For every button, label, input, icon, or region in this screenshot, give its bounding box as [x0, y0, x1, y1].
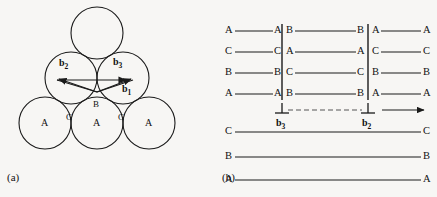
row-label-3-left-outer: B — [225, 67, 232, 78]
row-label-4-right-outer: A — [423, 88, 431, 99]
partial-vector-label-b3: b3 — [276, 118, 285, 131]
full-row-label-1-left: C — [225, 126, 232, 137]
site-label-c-left: C — [66, 113, 72, 122]
full-row-label-2-left: B — [225, 151, 232, 162]
row-label-3-middle-right: C — [357, 67, 364, 78]
row-label-3-right-outer: B — [423, 67, 430, 78]
vector-label-b1: b1 — [122, 84, 131, 97]
partial-vector-label-b2: b2 — [362, 118, 371, 131]
panel-b-caption: (b) — [222, 172, 235, 183]
vector-label-b2: b2 — [59, 58, 68, 71]
row-label-3-middle-left: C — [286, 67, 293, 78]
full-row-label-1-right: C — [423, 126, 430, 137]
vector-label-b1-sub: 1 — [128, 88, 132, 97]
site-label-c-right: C — [118, 113, 124, 122]
row-label-2-middle-left: A — [286, 46, 294, 57]
vector-label-b3-sub: 3 — [119, 61, 123, 70]
row-label-3-right-inner: B — [372, 67, 379, 78]
figure-container: A A A B C C b1 b2 b3 (a) A A B B A A C C… — [0, 0, 437, 197]
row-label-4-left-inner: A — [274, 88, 282, 99]
vector-label-b2-sub: 2 — [65, 62, 69, 71]
sphere-mid-left — [45, 52, 97, 104]
row-label-1-right-outer: A — [423, 25, 431, 36]
panel-b-dislocations — [275, 103, 424, 113]
full-row-label-2-right: B — [423, 151, 430, 162]
row-label-1-middle-right: B — [357, 25, 364, 36]
row-label-2-right-outer: C — [423, 46, 430, 57]
row-label-2-left-inner: C — [274, 46, 281, 57]
vector-closure-left — [57, 80, 97, 92]
row-label-2-right-inner: C — [372, 46, 379, 57]
row-label-1-left-inner: A — [274, 25, 282, 36]
sphere-top — [71, 7, 123, 59]
row-label-2-middle-right: A — [357, 46, 365, 57]
full-row-label-3-right: A — [423, 174, 431, 185]
row-label-4-middle-right: B — [357, 88, 364, 99]
row-label-2-left-outer: C — [225, 46, 232, 57]
panel-a-caption: (a) — [7, 172, 19, 183]
row-label-1-middle-left: B — [286, 25, 293, 36]
sphere-label-bottom-right: A — [145, 118, 152, 128]
panel-b-full-rows — [235, 132, 421, 180]
row-label-4-middle-left: B — [286, 88, 293, 99]
row-label-4-right-inner: A — [372, 88, 380, 99]
row-label-1-left-outer: A — [225, 25, 233, 36]
vector-label-b3: b3 — [113, 57, 122, 70]
partial-vector-label-b2-sub: 2 — [368, 122, 372, 131]
partial-vector-label-b3-sub: 3 — [282, 122, 286, 131]
row-label-3-left-inner: B — [274, 67, 281, 78]
panel-b-boundaries — [282, 24, 368, 100]
row-label-4-left-outer: A — [225, 88, 233, 99]
panel-b-stacking-rows — [235, 31, 421, 94]
sphere-label-bottom-left: A — [41, 118, 48, 128]
sphere-label-bottom-center: A — [93, 118, 100, 128]
site-label-b: B — [93, 100, 99, 109]
row-label-1-right-inner: A — [372, 25, 380, 36]
